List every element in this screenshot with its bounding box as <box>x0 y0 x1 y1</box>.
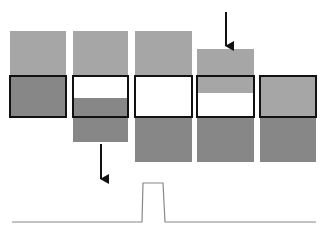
arrows-group <box>101 12 226 179</box>
diagram-canvas <box>0 0 326 235</box>
overlay-layer <box>0 0 326 235</box>
pulse-signal-line <box>12 183 316 222</box>
